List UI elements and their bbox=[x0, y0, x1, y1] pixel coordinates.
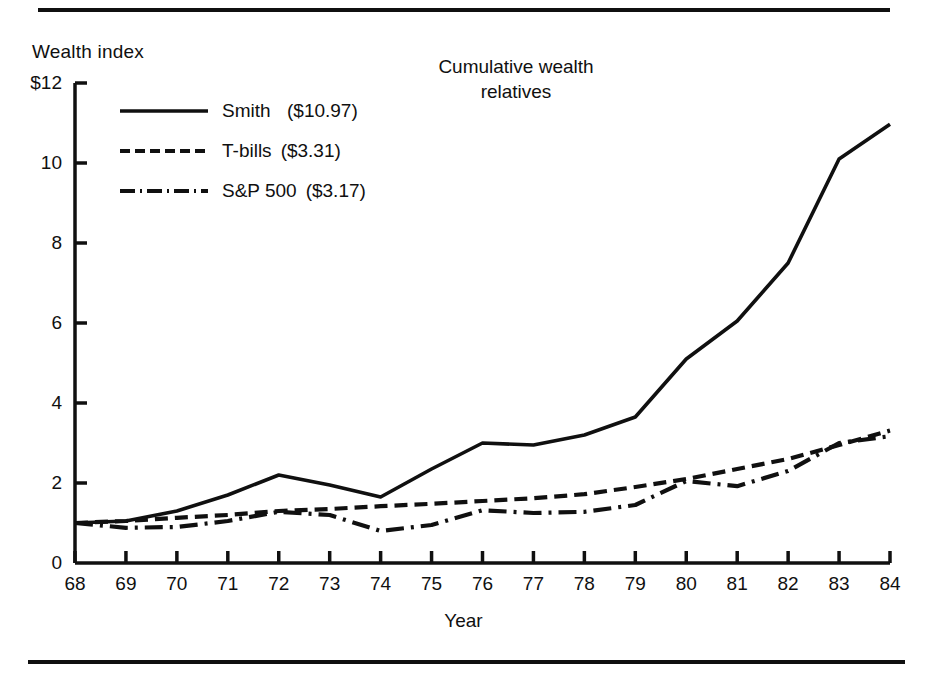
x-tick-label: 82 bbox=[766, 574, 810, 593]
x-tick-label: 81 bbox=[715, 574, 759, 593]
x-tick-label: 78 bbox=[562, 574, 606, 593]
legend-label-smith: Smith bbox=[222, 100, 278, 122]
legend: Smith($10.97) T-bills($3.31) S&P 500($3.… bbox=[118, 100, 366, 220]
x-tick-marks bbox=[75, 551, 890, 563]
legend-value-sp500: ($3.17) bbox=[306, 180, 366, 202]
legend-swatch-solid-icon bbox=[118, 104, 210, 118]
y-tick-label: 4 bbox=[4, 393, 62, 412]
figure-container: Wealth index Cumulative wealth relatives… bbox=[0, 0, 927, 684]
x-tick-label: 69 bbox=[104, 574, 148, 593]
legend-swatch-dashed-icon bbox=[118, 144, 210, 158]
x-tick-label: 70 bbox=[155, 574, 199, 593]
x-tick-label: 76 bbox=[461, 574, 505, 593]
legend-label-tbills: T-bills bbox=[222, 140, 272, 162]
x-tick-label: 77 bbox=[511, 574, 555, 593]
x-tick-label: 80 bbox=[664, 574, 708, 593]
legend-item-tbills: T-bills($3.31) bbox=[118, 140, 366, 180]
legend-label-sp500: S&P 500 bbox=[222, 180, 297, 202]
x-tick-label: 68 bbox=[53, 574, 97, 593]
legend-item-sp500: S&P 500($3.17) bbox=[118, 180, 366, 220]
legend-swatch-dash-dot-icon bbox=[118, 184, 210, 198]
x-tick-label: 75 bbox=[410, 574, 454, 593]
y-tick-label: $12 bbox=[4, 73, 62, 92]
x-tick-label: 72 bbox=[257, 574, 301, 593]
x-tick-label: 79 bbox=[613, 574, 657, 593]
x-tick-label: 73 bbox=[308, 574, 352, 593]
y-tick-label: 6 bbox=[4, 313, 62, 332]
legend-value-smith: ($10.97) bbox=[287, 100, 358, 122]
y-tick-label: 0 bbox=[4, 553, 62, 572]
legend-item-smith: Smith($10.97) bbox=[118, 100, 366, 140]
legend-value-tbills: ($3.31) bbox=[281, 140, 341, 162]
x-tick-label: 74 bbox=[359, 574, 403, 593]
y-tick-label: 10 bbox=[4, 153, 62, 172]
y-tick-label: 8 bbox=[4, 233, 62, 252]
y-tick-label: 2 bbox=[4, 473, 62, 492]
y-tick-marks bbox=[75, 83, 87, 483]
x-tick-label: 71 bbox=[206, 574, 250, 593]
x-tick-label: 83 bbox=[817, 574, 861, 593]
x-tick-label: 84 bbox=[868, 574, 912, 593]
